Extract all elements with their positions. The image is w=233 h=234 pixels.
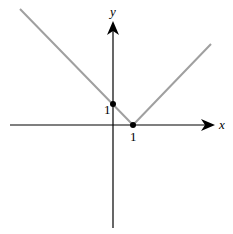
x-tick-label: 1 [130, 129, 137, 144]
y-tick-label: 1 [104, 102, 111, 117]
point-0-1 [110, 101, 116, 107]
graph-diagram: x y 1 1 [0, 0, 233, 234]
point-1-0 [130, 122, 136, 128]
function-graph [20, 9, 211, 125]
y-axis-label: y [108, 4, 116, 19]
x-axis-label: x [218, 117, 225, 132]
